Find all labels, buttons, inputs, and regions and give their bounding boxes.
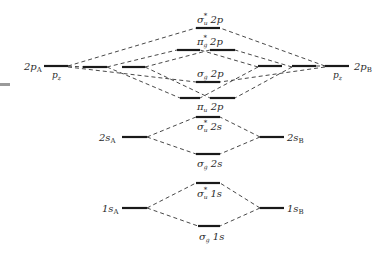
label-sigma-u-star-1s: σu* 1s <box>197 186 222 200</box>
label-2s-b: 2sB <box>286 132 304 145</box>
label-sigma-g-2p: σg 2p <box>197 68 224 81</box>
side-mark <box>0 83 10 86</box>
label-1s-a: 1sA <box>102 203 120 216</box>
label-2s-a: 2sA <box>98 132 117 145</box>
label-pz-a: pz <box>52 70 62 81</box>
label-2p-a: 2pA <box>23 61 43 74</box>
label-sigma-u-star-2p: σu* 2p <box>197 12 224 26</box>
mo-diagram: 2pA pz 2pB pz σu* 2p πg* 2p σg 2p πu 2p … <box>0 0 382 254</box>
label-sigma-u-star-2s: σu* 2s <box>197 119 222 133</box>
label-pz-b: pz <box>333 70 343 81</box>
label-pi-g-star-2p: πg* 2p <box>196 34 223 49</box>
label-1s-b: 1sB <box>287 203 304 216</box>
mo-diagram-svg: 2pA pz 2pB pz σu* 2p πg* 2p σg 2p πu 2p … <box>0 0 382 254</box>
label-sigma-g-2s: σg 2s <box>197 158 222 171</box>
label-sigma-g-1s: σg 1s <box>199 231 224 244</box>
label-2p-b: 2pB <box>353 61 372 74</box>
label-pi-u-2p: πu 2p <box>196 101 224 113</box>
